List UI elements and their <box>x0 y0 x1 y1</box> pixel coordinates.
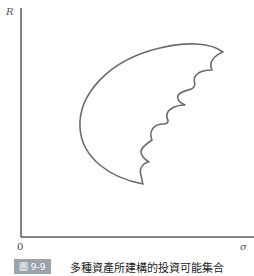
origin-label: 0 <box>17 241 23 252</box>
figure-number-badge: 圖 9-9 <box>14 259 51 274</box>
opportunity-set-boundary <box>80 44 223 184</box>
figure-caption-text: 多種資產所建構的投資可能集合 <box>70 262 224 275</box>
y-axis-label: R <box>6 6 14 17</box>
figure-caption: 圖 9-9 多種資產所建構的投資可能集合 <box>14 256 254 276</box>
x-axis-label: σ <box>240 241 247 252</box>
